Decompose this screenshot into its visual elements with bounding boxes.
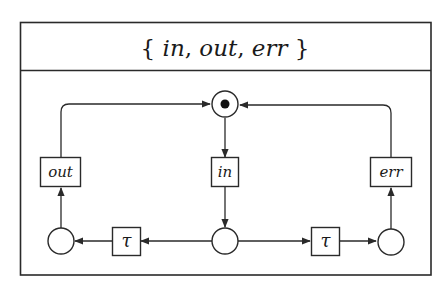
token-dot xyxy=(221,100,230,109)
arc-out-to-top-place xyxy=(61,104,210,157)
place-bottom-middle xyxy=(212,228,238,254)
transition-in-label: in xyxy=(218,163,232,181)
title-item-err: err xyxy=(252,35,290,61)
diagram-title: { in, out, err } xyxy=(141,35,310,61)
title-close-brace: } xyxy=(295,35,310,61)
title-open-brace: { xyxy=(141,35,156,61)
title-item-in: in xyxy=(163,35,185,61)
title-item-out: out xyxy=(199,35,238,61)
transition-err-label: err xyxy=(379,163,403,181)
petri-net-diagram: { in, out, err } out in err τ τ xyxy=(0,0,448,290)
arc-err-to-top-place xyxy=(240,105,391,157)
transition-out-label: out xyxy=(48,163,74,181)
place-bottom-left xyxy=(48,228,74,254)
place-bottom-right xyxy=(378,229,404,255)
transition-tau-right-label: τ xyxy=(321,230,332,251)
transition-tau-left-label: τ xyxy=(122,230,133,251)
